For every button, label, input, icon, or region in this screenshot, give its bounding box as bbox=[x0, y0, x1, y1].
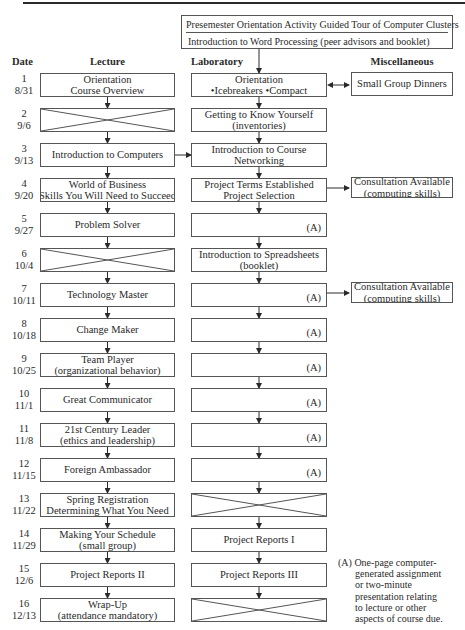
lab-box: Introduction to Spreadsheets(booklet) bbox=[191, 248, 327, 272]
footnote-label: (A) bbox=[338, 557, 352, 568]
week-number: 11 bbox=[8, 423, 40, 435]
misc-box-text: Consultation Available bbox=[354, 282, 450, 293]
misc-box-text: Consultation Available bbox=[354, 177, 450, 188]
week-day: 8/31 bbox=[8, 85, 40, 97]
week-number: 6 bbox=[8, 248, 40, 260]
week-date: 1111/8 bbox=[8, 423, 40, 446]
lecture-box-text: Orientation bbox=[84, 74, 132, 86]
week-number: 16 bbox=[8, 598, 40, 610]
week-day: 11/29 bbox=[8, 540, 40, 552]
week-day: 11/1 bbox=[8, 400, 40, 412]
lab-box: (A) bbox=[191, 458, 327, 482]
week-number: 7 bbox=[8, 283, 40, 295]
lecture-box: Problem Solver bbox=[40, 213, 175, 237]
top-rule bbox=[23, 2, 465, 4]
assignment-marker: (A) bbox=[306, 432, 321, 444]
lab-box-text: (booklet) bbox=[240, 260, 279, 272]
lecture-box: Making Your Schedule(small group) bbox=[40, 528, 175, 552]
lecture-box-text: Introduction to Computers bbox=[52, 149, 163, 161]
lecture-box: World of BusinessSkills You Will Need to… bbox=[40, 178, 175, 202]
lab-box bbox=[191, 493, 327, 517]
assignment-marker: (A) bbox=[306, 292, 321, 304]
week-number: 13 bbox=[8, 493, 40, 505]
lab-box: (A) bbox=[191, 213, 327, 237]
cross-out-icon bbox=[41, 249, 174, 271]
week-number: 5 bbox=[8, 213, 40, 225]
week-date: 610/4 bbox=[8, 248, 40, 271]
lecture-box-text: (attendance mandatory) bbox=[58, 610, 157, 622]
week-date: 1211/15 bbox=[8, 458, 40, 481]
lab-box: (A) bbox=[191, 318, 327, 342]
lab-box-text: Project Selection bbox=[223, 190, 294, 202]
week-number: 12 bbox=[8, 458, 40, 470]
assignment-marker: (A) bbox=[306, 397, 321, 409]
lecture-box-text: Change Maker bbox=[76, 324, 138, 336]
lab-box-text: (inventories) bbox=[232, 120, 286, 132]
lecture-box: Wrap-Up(attendance mandatory) bbox=[40, 598, 175, 622]
week-number: 9 bbox=[8, 353, 40, 365]
presemester-box: Presemester Orientation Activity Guided … bbox=[181, 15, 453, 49]
week-date: 1512/6 bbox=[8, 563, 40, 586]
assignment-marker: (A) bbox=[306, 467, 321, 479]
week-day: 12/6 bbox=[8, 575, 40, 587]
cross-out-icon bbox=[192, 494, 326, 516]
week-day: 9/27 bbox=[8, 225, 40, 237]
lab-box-text: Orientation bbox=[235, 74, 283, 86]
cross-out-icon bbox=[41, 109, 174, 131]
lecture-box-text: Making Your Schedule bbox=[59, 529, 156, 541]
lab-box-text: Networking bbox=[234, 155, 284, 167]
header-date: Date bbox=[12, 56, 33, 67]
week-day: 10/18 bbox=[8, 330, 40, 342]
lecture-box-text: (organizational behavior) bbox=[54, 365, 160, 377]
lecture-box: Technology Master bbox=[40, 283, 175, 307]
week-date: 39/13 bbox=[8, 143, 40, 166]
week-day: 11/22 bbox=[8, 505, 40, 517]
week-day: 10/25 bbox=[8, 365, 40, 377]
week-number: 8 bbox=[8, 318, 40, 330]
week-date: 1411/29 bbox=[8, 528, 40, 551]
lecture-box: Introduction to Computers bbox=[40, 143, 175, 167]
lecture-box: Spring RegistrationDetermining What You … bbox=[40, 493, 175, 517]
lecture-box-text: Determining What You Need bbox=[46, 505, 168, 517]
presemester-line2: Introduction to Word Processing (peer ad… bbox=[188, 36, 429, 47]
week-date: 49/20 bbox=[8, 178, 40, 201]
week-number: 10 bbox=[8, 388, 40, 400]
lecture-box-text: Spring Registration bbox=[67, 494, 149, 506]
lecture-box: Project Reports II bbox=[40, 563, 175, 587]
lecture-box bbox=[40, 248, 175, 272]
lecture-box: Great Communicator bbox=[40, 388, 175, 412]
week-date: 1311/22 bbox=[8, 493, 40, 516]
footnote-line: or two-minute bbox=[338, 579, 443, 590]
lab-box: (A) bbox=[191, 423, 327, 447]
lecture-box-text: Skills You Will Need to Succeed bbox=[40, 190, 175, 202]
lab-box bbox=[191, 598, 327, 622]
misc-box-text: (computing skills) bbox=[364, 293, 441, 304]
header-miscellaneous: Miscellaneous bbox=[351, 56, 453, 67]
lab-box: Orientation•Icebreakers •Compact bbox=[191, 73, 327, 97]
header-laboratory: Laboratory bbox=[191, 56, 243, 67]
week-date: 29/6 bbox=[8, 108, 40, 131]
week-number: 2 bbox=[8, 108, 40, 120]
lecture-box-text: (small group) bbox=[79, 540, 136, 552]
week-number: 4 bbox=[8, 178, 40, 190]
lab-box: (A) bbox=[191, 388, 327, 412]
week-number: 15 bbox=[8, 563, 40, 575]
week-date: 18/31 bbox=[8, 73, 40, 96]
footnote-line: generated assignment bbox=[338, 568, 443, 579]
week-number: 1 bbox=[8, 73, 40, 85]
week-day: 9/13 bbox=[8, 155, 40, 167]
footnote-line: One-page computer- bbox=[354, 557, 436, 568]
misc-box: Consultation Available(computing skills) bbox=[351, 282, 453, 303]
footnote: (A) One-page computer- generated assignm… bbox=[338, 557, 443, 624]
assignment-marker: (A) bbox=[306, 222, 321, 234]
footnote-line: presentation relating bbox=[338, 591, 443, 602]
header-lecture: Lecture bbox=[40, 56, 175, 67]
week-day: 10/11 bbox=[8, 295, 40, 307]
lecture-box: Change Maker bbox=[40, 318, 175, 342]
lab-box: Project Terms EstablishedProject Selecti… bbox=[191, 178, 327, 202]
misc-box-text: (computing skills) bbox=[364, 188, 441, 199]
lecture-box-text: Project Reports II bbox=[70, 569, 145, 581]
lab-box: Project Reports I bbox=[191, 528, 327, 552]
footnote-line: aspects of course due. bbox=[338, 613, 443, 624]
lecture-box-text: Great Communicator bbox=[63, 394, 152, 406]
